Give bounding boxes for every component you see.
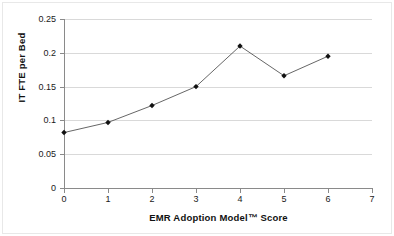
x-tick-label-3: 3 xyxy=(181,195,211,204)
x-tick-label-6: 6 xyxy=(313,195,343,204)
x-tick-label-2: 2 xyxy=(137,195,167,204)
y-tick-mark xyxy=(60,154,64,155)
x-axis-title: EMR Adoption Model™ Score xyxy=(64,212,373,223)
x-tick-mark xyxy=(196,189,197,193)
gridline-0.05 xyxy=(64,154,372,155)
x-tick-mark xyxy=(152,189,153,193)
x-tick-label-4: 4 xyxy=(225,195,255,204)
y-tick-mark xyxy=(60,87,64,88)
x-axis-line xyxy=(64,188,373,189)
gridline-0.1 xyxy=(64,120,372,121)
y-tick-mark xyxy=(60,19,64,20)
y-axis-line xyxy=(64,19,65,189)
x-tick-label-7: 7 xyxy=(357,195,387,204)
x-tick-label-0: 0 xyxy=(49,195,79,204)
chart-figure: 0.25 0.2 0.15 0.1 0.05 0 0 1 2 3 4 5 6 7… xyxy=(0,0,394,236)
x-tick-mark xyxy=(108,189,109,193)
plot-area xyxy=(64,19,372,188)
x-tick-mark xyxy=(372,189,373,193)
x-tick-mark xyxy=(240,189,241,193)
gridline-0.2 xyxy=(64,53,372,54)
y-tick-label-0.05: 0.05 xyxy=(16,150,56,159)
y-tick-label-0: 0 xyxy=(16,184,56,193)
gridline-0.15 xyxy=(64,87,372,88)
x-tick-label-1: 1 xyxy=(93,195,123,204)
y-tick-mark xyxy=(60,53,64,54)
y-axis-title: IT FTE per Bed xyxy=(16,3,27,133)
x-tick-mark xyxy=(284,189,285,193)
y-tick-mark xyxy=(60,120,64,121)
gridline-0.25 xyxy=(64,19,372,20)
x-tick-label-5: 5 xyxy=(269,195,299,204)
x-tick-mark xyxy=(64,189,65,193)
x-tick-mark xyxy=(328,189,329,193)
